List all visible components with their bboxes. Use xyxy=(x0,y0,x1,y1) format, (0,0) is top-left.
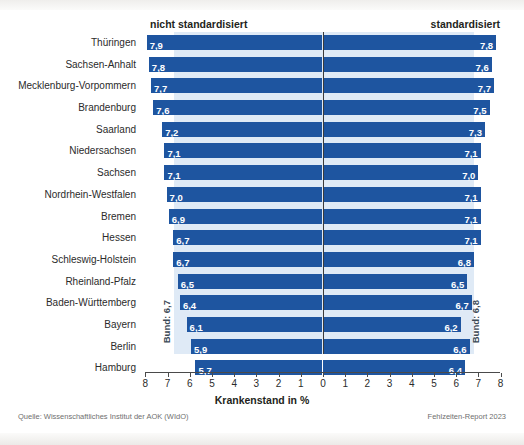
series-header-right: standardisiert xyxy=(431,18,500,30)
bar-value-label: 6,4 xyxy=(183,298,196,313)
axis-tick xyxy=(301,373,302,377)
bar-value-label: 7,7 xyxy=(154,81,167,96)
bar-value-label: 7,9 xyxy=(150,38,163,53)
bar-nicht-standardisiert: 7,1 xyxy=(164,143,322,158)
axis-tick-label: 4 xyxy=(231,378,237,389)
bar-value-label: 6,7 xyxy=(456,298,469,313)
category-label: Saarland xyxy=(0,119,140,141)
axis-tick-label: 7 xyxy=(476,378,482,389)
bar-value-label: 7,6 xyxy=(156,103,169,118)
bar-value-label: 7,1 xyxy=(464,190,477,205)
category-label: Thüringen xyxy=(0,32,140,54)
axis-tick-label: 2 xyxy=(365,378,371,389)
axis-tick-label: 0 xyxy=(320,378,326,389)
bar-standardisiert: 7,3 xyxy=(323,122,485,137)
bar-nicht-standardisiert: 6,7 xyxy=(173,252,322,267)
bar-nicht-standardisiert: 7,9 xyxy=(147,35,322,50)
reference-label-bund-left: Bund: 6,7 xyxy=(161,300,172,343)
bar-value-label: 6,9 xyxy=(172,212,185,227)
bar-value-label: 7,6 xyxy=(476,60,489,75)
bar-standardisiert: 7,7 xyxy=(323,78,494,93)
axis-tick xyxy=(190,373,191,377)
bar-value-label: 6,8 xyxy=(458,255,471,270)
bar-standardisiert: 7,1 xyxy=(323,143,481,158)
bar-value-label: 6,5 xyxy=(181,277,194,292)
axis-tick xyxy=(478,373,479,377)
axis-tick xyxy=(390,373,391,377)
category-label: Baden-Württemberg xyxy=(0,292,140,314)
category-label: Hessen xyxy=(0,227,140,249)
plot-area: 7,97,87,87,67,77,77,67,57,27,37,17,17,17… xyxy=(145,32,500,372)
axis-tick xyxy=(456,373,457,377)
category-label: Nordrhein-Westfalen xyxy=(0,184,140,206)
source-note: Quelle: Wissenschaftliches Institut der … xyxy=(18,412,188,421)
axis-tick xyxy=(412,373,413,377)
bar-value-label: 6,7 xyxy=(176,233,189,248)
axis-tick-label: 2 xyxy=(276,378,282,389)
bar-value-label: 7,2 xyxy=(165,125,178,140)
bar-standardisiert: 7,1 xyxy=(323,230,481,245)
bar-nicht-standardisiert: 5,9 xyxy=(191,339,322,354)
bar-nicht-standardisiert: 7,8 xyxy=(149,57,322,72)
axis-tick-label: 7 xyxy=(165,378,171,389)
bar-standardisiert: 7,5 xyxy=(323,100,490,115)
bar-standardisiert: 7,1 xyxy=(323,187,481,202)
bar-standardisiert: 6,8 xyxy=(323,252,474,267)
bar-value-label: 7,7 xyxy=(478,81,491,96)
bar-value-label: 7,0 xyxy=(462,168,475,183)
axis-tick xyxy=(345,373,346,377)
axis-tick xyxy=(434,373,435,377)
axis-tick-label: 5 xyxy=(431,378,437,389)
axis-tick xyxy=(256,373,257,377)
axis-title: Krankenstand in % xyxy=(0,394,524,406)
report-note: Fehlzeiten-Report 2023 xyxy=(428,412,506,421)
zero-axis-line xyxy=(323,32,324,354)
axis-tick-label: 5 xyxy=(209,378,215,389)
category-label: Berlin xyxy=(0,336,140,358)
bar-standardisiert: 7,1 xyxy=(323,209,481,224)
bar-value-label: 7,5 xyxy=(473,103,486,118)
category-label: Rheinland-Pfalz xyxy=(0,271,140,293)
category-label: Sachsen-Anhalt xyxy=(0,54,140,76)
bar-value-label: 6,2 xyxy=(444,320,457,335)
bar-nicht-standardisiert: 7,7 xyxy=(151,78,322,93)
axis-tick xyxy=(279,373,280,377)
reference-label-bund-right: Bund: 6,8 xyxy=(470,300,481,343)
bar-nicht-standardisiert: 6,4 xyxy=(180,295,322,310)
series-header-left: nicht standardisiert xyxy=(150,18,247,30)
bar-value-label: 7,1 xyxy=(464,233,477,248)
axis-tick-label: 3 xyxy=(254,378,260,389)
bar-value-label: 7,8 xyxy=(152,60,165,75)
bar-standardisiert: 6,6 xyxy=(323,339,470,354)
bar-standardisiert: 7,8 xyxy=(323,35,496,50)
bar-nicht-standardisiert: 6,9 xyxy=(169,209,322,224)
axis-tick-label: 6 xyxy=(187,378,193,389)
bar-standardisiert: 6,2 xyxy=(323,317,461,332)
category-label: Bayern xyxy=(0,314,140,336)
axis-tick-label: 1 xyxy=(342,378,348,389)
bar-value-label: 7,3 xyxy=(469,125,482,140)
value-axis-tick-labels: 87654321012345678 xyxy=(145,378,500,392)
bar-value-label: 6,1 xyxy=(190,320,203,335)
axis-tick-label: 3 xyxy=(387,378,393,389)
category-label: Bremen xyxy=(0,206,140,228)
bar-value-label: 6,6 xyxy=(453,342,466,357)
bar-nicht-standardisiert: 6,5 xyxy=(178,274,322,289)
bar-nicht-standardisiert: 6,1 xyxy=(187,317,322,332)
bar-nicht-standardisiert: 6,7 xyxy=(173,230,322,245)
bar-standardisiert: 6,7 xyxy=(323,295,472,310)
category-label: Sachsen xyxy=(0,162,140,184)
bar-value-label: 7,1 xyxy=(167,146,180,161)
bar-nicht-standardisiert: 7,1 xyxy=(164,165,322,180)
axis-tick-label: 1 xyxy=(298,378,304,389)
bar-value-label: 7,8 xyxy=(480,38,493,53)
bar-value-label: 5,9 xyxy=(194,342,207,357)
bar-nicht-standardisiert: 7,6 xyxy=(153,100,322,115)
bar-value-label: 7,1 xyxy=(464,212,477,227)
category-label: Niedersachsen xyxy=(0,140,140,162)
category-label: Schleswig-Holstein xyxy=(0,249,140,271)
axis-tick xyxy=(234,373,235,377)
diverging-bar-chart: nicht standardisiert standardisiert Thür… xyxy=(0,0,524,445)
axis-tick xyxy=(168,373,169,377)
bar-standardisiert: 6,5 xyxy=(323,274,467,289)
